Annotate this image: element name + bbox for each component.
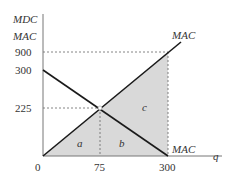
x-tick-0: 0 [35,161,41,173]
x-tick-300: 300 [159,161,176,173]
y-tick-300: 300 [15,64,32,76]
region-a-label: a [77,137,83,149]
region-c-label: c [142,101,147,113]
intersection-point [98,106,102,110]
diagram-canvas [0,0,232,180]
y-tick-900: 900 [15,46,32,58]
rising-curve-label: MAC [172,29,195,41]
y-tick-225: 225 [15,102,32,114]
x-axis-title: q [213,150,219,162]
falling-curve-label: MAC [172,143,195,155]
y-axis-title-mac: MAC [13,30,36,42]
y-axis-title-mdc: MDC [13,13,37,25]
x-tick-75: 75 [94,161,105,173]
region-b-label: b [119,137,125,149]
